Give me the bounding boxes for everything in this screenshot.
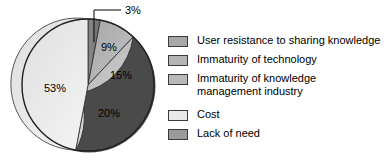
- legend-item-user-resistance[interactable]: User resistance to sharing knowledge: [168, 34, 388, 47]
- legend-swatch-immaturity-technology: [168, 55, 188, 66]
- legend-item-lack-of-need[interactable]: Lack of need: [168, 127, 388, 140]
- pie-label-3-percent: 3%: [125, 4, 141, 16]
- pie-label-9-percent: 9%: [101, 41, 117, 53]
- legend-label-cost: Cost: [197, 108, 220, 121]
- chart-legend: User resistance to sharing knowledge Imm…: [168, 34, 388, 146]
- legend-swatch-cost: [168, 110, 188, 121]
- legend-item-immaturity-technology[interactable]: Immaturity of technology: [168, 53, 388, 66]
- pie-chart-figure: 3% 9% 15% 20% 53% User resistance to sha…: [0, 0, 388, 164]
- pie-svg: [0, 0, 175, 164]
- legend-label-lack-of-need: Lack of need: [197, 127, 260, 140]
- legend-item-immaturity-km-industry[interactable]: Immaturity of knowledge management indus…: [168, 72, 388, 98]
- legend-swatch-lack-of-need: [168, 129, 188, 140]
- pie-label-20-percent: 20%: [98, 107, 120, 119]
- pie-label-15-percent: 15%: [110, 69, 132, 81]
- legend-label-user-resistance: User resistance to sharing knowledge: [197, 34, 380, 47]
- pie-label-53-percent: 53%: [44, 82, 66, 94]
- legend-swatch-user-resistance: [168, 36, 188, 47]
- legend-swatch-immaturity-km-industry: [168, 74, 188, 85]
- legend-label-immaturity-km-industry: Immaturity of knowledge management indus…: [197, 72, 316, 98]
- pie-chart-plot: 3% 9% 15% 20% 53%: [0, 0, 175, 164]
- legend-item-cost[interactable]: Cost: [168, 108, 388, 121]
- legend-label-immaturity-technology: Immaturity of technology: [197, 53, 317, 66]
